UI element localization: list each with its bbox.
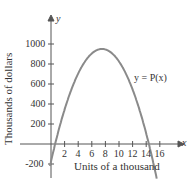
- x-tick-label: 2: [62, 148, 67, 159]
- y-axis-arrow: [48, 15, 54, 21]
- y-tick-label: 600: [30, 78, 45, 89]
- x-tick-label: 8: [103, 148, 108, 159]
- y-tick-label: -200: [25, 158, 43, 169]
- x-axis-symbol: x: [182, 137, 186, 148]
- x-axis-label: Units of a thousand: [74, 160, 160, 172]
- x-tick-label: 4: [76, 148, 81, 159]
- x-tick-label: 16: [155, 148, 165, 159]
- x-tick-label: 12: [127, 148, 137, 159]
- y-tick-label: 800: [30, 58, 45, 69]
- x-tick-label: 14: [141, 148, 151, 159]
- x-tick-label: 10: [114, 148, 124, 159]
- function-label: y = P(x): [134, 72, 167, 83]
- y-axis-label: Thousands of dollars: [2, 53, 14, 145]
- x-tick-label: 6: [89, 148, 94, 159]
- y-tick-label: 1000: [25, 38, 45, 49]
- y-axis-symbol: y: [56, 13, 60, 24]
- y-tick-label: 200: [30, 118, 45, 129]
- y-tick-label: 400: [30, 98, 45, 109]
